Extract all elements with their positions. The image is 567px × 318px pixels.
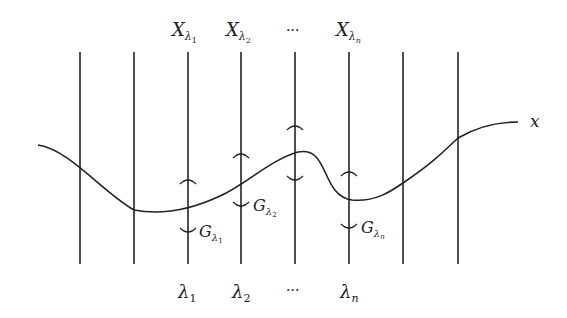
- top-label-n: Xλn: [334, 19, 361, 45]
- bottom-label-ellipsis: ···: [286, 282, 299, 298]
- bottom-label-n: λn: [339, 281, 359, 305]
- bottom-label-1: λ1: [177, 281, 196, 305]
- top-label-1: Xλ1: [170, 19, 197, 45]
- curve-label-x: x: [530, 111, 540, 131]
- group-label-1: Gλ1: [199, 222, 223, 245]
- top-label-2: Xλ2: [224, 19, 251, 45]
- bottom-labels: λ1 λ2 ··· λn: [177, 281, 359, 305]
- vertical-fibers: [80, 52, 458, 264]
- top-label-ellipsis: ···: [286, 22, 299, 38]
- group-label-n: Gλn: [361, 218, 385, 241]
- group-labels: Gλ1 Gλ2 Gλn: [199, 196, 385, 245]
- section-curve: [38, 122, 518, 212]
- group-label-2: Gλ2: [253, 196, 277, 219]
- bottom-label-2: λ2: [231, 281, 250, 305]
- fiber-diagram: Xλ1 Xλ2 ··· Xλn λ1 λ2 ··· λn Gλ1 Gλ2 Gλn…: [0, 0, 567, 318]
- top-labels: Xλ1 Xλ2 ··· Xλn: [170, 19, 361, 45]
